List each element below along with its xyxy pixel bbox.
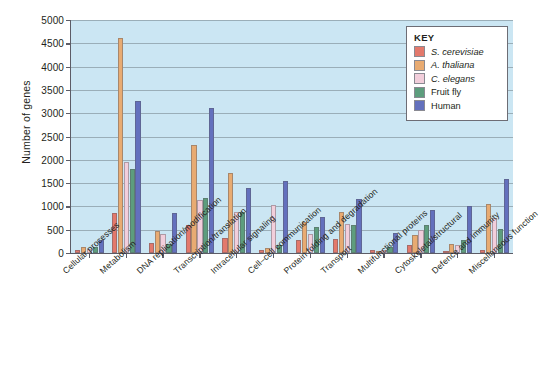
legend-swatch	[414, 87, 425, 98]
legend: KEY S. cerevisiaeA. thalianaC. elegansFr…	[406, 26, 508, 121]
legend-label: Fruit fly	[431, 87, 461, 97]
x-axis-label: Multifunctional proteins	[356, 208, 430, 276]
legend-label: Human	[431, 101, 461, 111]
legend-swatch	[414, 46, 425, 57]
legend-swatch	[414, 60, 425, 71]
x-axis-label: Miscellaneous function	[466, 209, 539, 276]
legend-title: KEY	[414, 32, 501, 43]
legend-swatch	[414, 73, 425, 84]
x-axis-label: Transcription/translation	[172, 205, 248, 275]
legend-item: C. elegans	[414, 73, 501, 84]
legend-item: Fruit fly	[414, 87, 501, 98]
legend-item: Human	[414, 100, 501, 111]
x-axis-label: Intracellular signaling	[208, 213, 276, 276]
legend-items: S. cerevisiaeA. thalianaC. elegansFruit …	[414, 46, 501, 111]
x-axis-label: Transport	[319, 243, 353, 275]
legend-item: A. thaliana	[414, 60, 501, 71]
legend-swatch	[414, 100, 425, 111]
legend-label: C. elegans	[431, 74, 475, 84]
x-axis-label: Metabolism	[98, 238, 138, 276]
x-axis-label: Defence and immunity	[429, 210, 501, 276]
legend-label: S. cerevisiae	[431, 47, 484, 57]
legend-item: S. cerevisiae	[414, 46, 501, 57]
legend-label: A. thaliana	[431, 60, 474, 70]
x-axis-label: Cytoskeletal/structural	[393, 210, 464, 276]
